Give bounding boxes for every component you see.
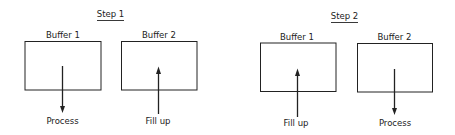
arrow-down-icon — [392, 108, 397, 115]
step-2-buffer-2-action: Process — [379, 118, 412, 128]
step-1-buffer-2-action: Fill up — [146, 116, 171, 126]
step-1-title: Step 1 — [97, 9, 124, 19]
step-1-buffer-1-action: Process — [46, 116, 79, 126]
step-1-buffer-2: Buffer 2 Fill up — [122, 30, 198, 127]
step-1-panel: Step 1 Buffer 1 Process Buffer 2 Fill up — [25, 9, 197, 126]
step-2-buffer-1-box — [261, 43, 337, 92]
step-2-buffer-1-action: Fill up — [284, 118, 309, 128]
step-1-buffer-1: Buffer 1 Process — [25, 30, 101, 127]
step-2-buffer-2-label: Buffer 2 — [378, 32, 412, 42]
arrow-up-icon — [295, 69, 300, 77]
step-1-buffer-2-label: Buffer 2 — [142, 30, 176, 40]
step-2-buffer-2: Buffer 2 Process — [358, 32, 433, 128]
double-buffering-diagram: Step 1 Buffer 1 Process Buffer 2 Fill up… — [0, 0, 455, 135]
step-1-buffer-1-label: Buffer 1 — [46, 30, 80, 40]
step-2-panel: Step 2 Buffer 1 Fill up Buffer 2 Process — [261, 11, 433, 128]
arrow-up-icon — [156, 67, 161, 75]
step-2-buffer-1: Buffer 1 Fill up — [261, 32, 337, 129]
arrow-down-icon — [60, 106, 65, 113]
step-2-title: Step 2 — [331, 11, 358, 21]
step-1-buffer-2-box — [122, 42, 198, 91]
step-2-buffer-1-label: Buffer 1 — [280, 32, 314, 42]
